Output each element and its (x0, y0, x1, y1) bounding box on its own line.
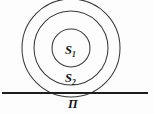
label-middle-region-letter: S (65, 71, 72, 85)
geometry-diagram: S1 S2 П (0, 0, 154, 114)
label-inner-region-subscript: 1 (72, 50, 76, 59)
label-inner-region: S1 (65, 43, 76, 59)
figure-container: S1 S2 П (0, 0, 154, 114)
label-inner-region-letter: S (65, 43, 72, 57)
label-middle-region: S2 (65, 71, 76, 87)
label-plane: П (67, 97, 79, 111)
label-middle-region-subscript: 2 (71, 78, 76, 87)
